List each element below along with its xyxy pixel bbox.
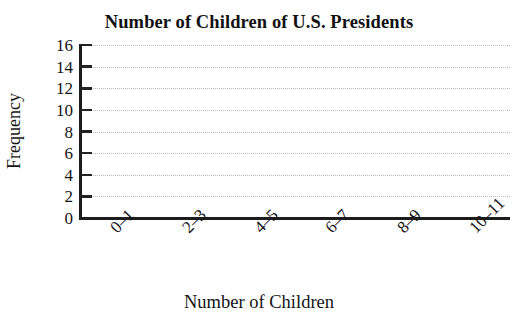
- gridline: [79, 175, 510, 176]
- y-axis-tick-label: 12: [56, 80, 73, 97]
- y-axis-tick-mark: [79, 65, 92, 68]
- histogram-figure: Number of Children of U.S. Presidents Fr…: [0, 0, 518, 324]
- x-axis-title: Number of Children: [0, 292, 518, 313]
- y-axis-tick-label: 16: [56, 37, 73, 54]
- y-axis-tick-label: 8: [65, 123, 74, 140]
- gridline: [79, 67, 510, 68]
- gridline: [79, 196, 510, 197]
- gridline: [79, 110, 510, 111]
- plot-area: 0246810121416: [79, 45, 510, 218]
- y-axis-tick-label: 14: [56, 58, 73, 75]
- y-axis-tick-label: 2: [65, 188, 74, 205]
- y-axis-tick-mark: [79, 44, 92, 47]
- y-axis-title: Frequency: [4, 93, 25, 169]
- y-axis-tick-label: 10: [56, 101, 73, 118]
- y-axis-tick-label: 4: [65, 166, 74, 183]
- chart-title: Number of Children of U.S. Presidents: [0, 12, 518, 33]
- y-axis-tick-mark: [79, 195, 92, 198]
- y-axis-tick-mark: [79, 87, 92, 90]
- gridline: [79, 45, 510, 46]
- y-axis-tick-mark: [79, 152, 92, 155]
- y-axis-tick-mark: [79, 109, 92, 112]
- gridline: [79, 88, 510, 89]
- gridline: [79, 153, 510, 154]
- y-axis-tick-mark: [79, 130, 92, 133]
- gridline: [79, 132, 510, 133]
- y-axis-tick-mark: [79, 174, 92, 177]
- y-axis-tick-label: 6: [65, 145, 74, 162]
- y-axis-tick-label: 0: [65, 210, 74, 227]
